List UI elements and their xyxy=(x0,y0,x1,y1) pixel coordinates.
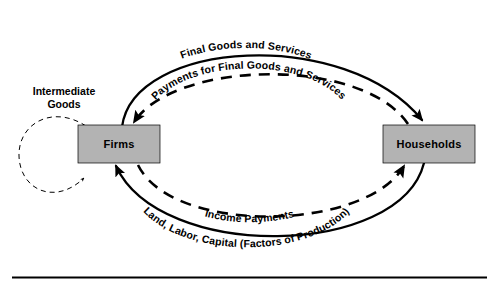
label-income-payments: Income Payments xyxy=(204,207,295,225)
node-firms: Firms xyxy=(78,125,160,163)
intermediate-goods-line-1: Intermediate xyxy=(33,85,96,97)
households-label: Households xyxy=(397,138,462,150)
label-intermediate-goods: Intermediate Goods xyxy=(33,85,96,110)
flow-diagram-canvas: Firms Households Final Goods and Service… xyxy=(0,0,487,284)
label-payments-for-final-goods: Payments for Final Goods and Services xyxy=(149,58,350,101)
flow-arc-income-payments xyxy=(138,165,404,217)
firms-label: Firms xyxy=(104,138,135,150)
node-households: Households xyxy=(383,125,475,163)
circular-flow-diagram: Firms Households Final Goods and Service… xyxy=(0,0,487,284)
intermediate-goods-line-2: Goods xyxy=(47,98,80,110)
flow-loop-intermediate-goods xyxy=(19,117,86,193)
